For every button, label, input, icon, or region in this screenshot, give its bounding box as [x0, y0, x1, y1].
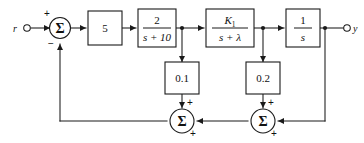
- block-tf2-denominator-symbol: λ: [235, 31, 241, 43]
- output-terminal-circle: [344, 25, 351, 32]
- block-gain-0p1-label: 0.1: [175, 72, 189, 84]
- block-diagram-canvas: r y Σ + − 5 2 s + 10 K1: [0, 0, 364, 143]
- block-gain-0p1[interactable]: 0.1: [165, 62, 199, 94]
- arrow-into-tf1: [130, 25, 136, 31]
- block-tf-k1-over-s-plus-lambda[interactable]: K1 s + λ: [206, 9, 254, 47]
- summer-input-symbol: Σ: [55, 21, 64, 36]
- block-gain-5-label: 5: [102, 22, 108, 34]
- summer-input-sign-plus: +: [44, 8, 50, 19]
- summer-outer-sign-right: +: [271, 128, 277, 139]
- summer-input-sign-minus: −: [48, 38, 54, 49]
- block-integrator[interactable]: 1 s: [286, 9, 320, 47]
- block-tf-2-over-s-plus-10[interactable]: 2 s + 10: [138, 9, 176, 47]
- block-gain-0p2[interactable]: 0.2: [246, 62, 280, 94]
- arrow-into-summer-outer-right: [278, 118, 284, 124]
- output-terminal-group: y: [344, 23, 358, 34]
- arrow-into-integrator: [278, 25, 284, 31]
- arrow-into-gain5: [80, 25, 86, 31]
- arrow-into-gain01: [179, 56, 185, 62]
- block-tf2-numerator-sub: 1: [232, 20, 236, 29]
- block-integrator-denominator: s: [301, 31, 305, 43]
- summer-inner-sign-top: +: [187, 97, 193, 108]
- block-gain-5[interactable]: 5: [88, 11, 122, 45]
- main-return-wires: [60, 44, 167, 121]
- summer-inner-sign-right: +: [190, 128, 196, 139]
- block-tf2-denominator: s + λ: [219, 31, 241, 43]
- block-gain-0p2-label: 0.2: [256, 72, 270, 84]
- block-tf1-numerator: 2: [154, 14, 160, 26]
- output-label: y: [352, 23, 358, 34]
- branch-node-output: [323, 26, 327, 30]
- arrow-into-tf2: [198, 25, 204, 31]
- block-tf2-denominator-prefix: s +: [219, 31, 236, 43]
- control-system-diagram: r y Σ + − 5 2 s + 10 K1: [0, 0, 364, 143]
- input-terminal-group: r: [13, 23, 30, 34]
- input-label: r: [13, 23, 17, 34]
- arrow-into-gain02: [260, 56, 266, 62]
- branch-node-after-tf2: [261, 26, 265, 30]
- summer-inner-symbol: Σ: [177, 114, 186, 129]
- arrow-into-summer-input-bottom: [57, 44, 63, 50]
- block-tf1-denominator: s + 10: [143, 31, 172, 43]
- arrow-into-summer-inner-right: [197, 118, 203, 124]
- summer-outer-symbol: Σ: [258, 114, 267, 129]
- input-terminal-circle: [24, 25, 31, 32]
- branch-node-after-tf1: [180, 26, 184, 30]
- arrow-into-summer-inner-top: [179, 102, 185, 108]
- block-integrator-numerator: 1: [300, 14, 306, 26]
- summer-outer-sign-top: +: [268, 97, 274, 108]
- arrow-into-summer-outer-top: [260, 102, 266, 108]
